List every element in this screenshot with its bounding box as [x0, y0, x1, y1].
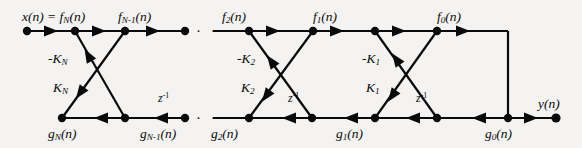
node-output	[551, 113, 560, 122]
node-bot-5	[308, 114, 316, 122]
delay-label-3: z-1	[416, 92, 427, 104]
node-bot-2	[121, 114, 129, 122]
lattice-filter-diagram	[0, 0, 582, 148]
backward-label-g1: g1(n)	[336, 127, 363, 142]
coefficient-label-neg-K2: -K2	[237, 52, 255, 67]
arrow-top-5	[330, 26, 344, 37]
arrow-bot-6	[406, 113, 420, 124]
node-bot-1	[58, 114, 66, 122]
stage-N-neg-branch	[75, 31, 125, 118]
arrow-bot-2	[154, 113, 168, 124]
node-g0	[504, 114, 512, 122]
backward-label-g0: g0(n)	[485, 127, 512, 142]
arrow-bot-7	[472, 113, 486, 124]
ellipsis-top: · · ·	[196, 24, 234, 39]
node-top-1	[71, 27, 79, 35]
delay-label-2: z-1	[288, 92, 299, 104]
backward-label-gN: gN(n)	[48, 127, 77, 142]
arrow-top-2	[146, 26, 160, 37]
node-top-4	[245, 27, 253, 35]
coefficient-label-pos-KN: KN	[53, 81, 68, 96]
backward-label-gN1: gN-1(n)	[140, 127, 176, 142]
backward-label-g2: g2(n)	[211, 127, 238, 142]
forward-label-fN1: fN-1(n)	[118, 10, 151, 25]
graph-nodes	[23, 27, 561, 123]
coefficient-label-neg-KN: -KN	[48, 52, 68, 67]
node-top-3	[181, 27, 189, 35]
node-top-7	[433, 27, 441, 35]
coefficient-label-pos-K2: K2	[241, 81, 255, 96]
delay-label-1: z-1	[158, 92, 169, 104]
node-top-2	[121, 27, 129, 35]
node-bot-6	[371, 114, 379, 122]
arrow-bot-4	[282, 113, 296, 124]
arrow-top-1	[92, 26, 106, 37]
arrow-top-7	[456, 26, 470, 37]
arrow-top-4	[266, 26, 280, 37]
arrow-bot-5	[344, 113, 358, 124]
arrow-top-in	[44, 26, 58, 37]
arrow-stage-N-neg	[80, 46, 96, 64]
coefficient-label-pos-K1: K1	[366, 81, 380, 96]
arrow-output	[524, 113, 538, 124]
node-bot-7	[433, 114, 441, 122]
node-bot-3	[181, 114, 189, 122]
coefficient-label-neg-K1: -K1	[362, 52, 380, 67]
arrow-top-6	[392, 26, 406, 37]
node-bot-4	[245, 114, 253, 122]
node-top-6	[371, 27, 379, 35]
node-input	[23, 27, 31, 35]
ellipsis-bottom: · · ·	[196, 111, 234, 126]
forward-label-f0: f0(n)	[437, 10, 461, 25]
node-top-5	[309, 27, 317, 35]
output-label: y(n)	[538, 97, 560, 111]
input-label: x(n) = fN(n)	[22, 10, 85, 25]
arrow-bot-1	[94, 113, 108, 124]
forward-label-f1: f1(n)	[313, 10, 337, 25]
stage-N-pos-branch	[62, 31, 125, 118]
